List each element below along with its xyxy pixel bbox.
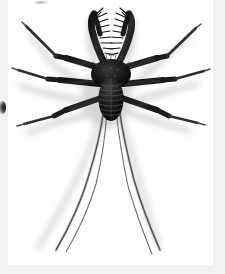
specimen-image (8, 0, 213, 265)
adjacent-figure-bleed (0, 101, 6, 114)
leg-rear-right (122, 98, 205, 125)
leg-mid-left (12, 68, 100, 84)
leg-mid-right (123, 69, 210, 84)
antenniform-whip-legs (56, 108, 160, 254)
opisthosoma (99, 77, 124, 121)
specimen-plate (8, 0, 213, 265)
page-background (0, 0, 225, 274)
